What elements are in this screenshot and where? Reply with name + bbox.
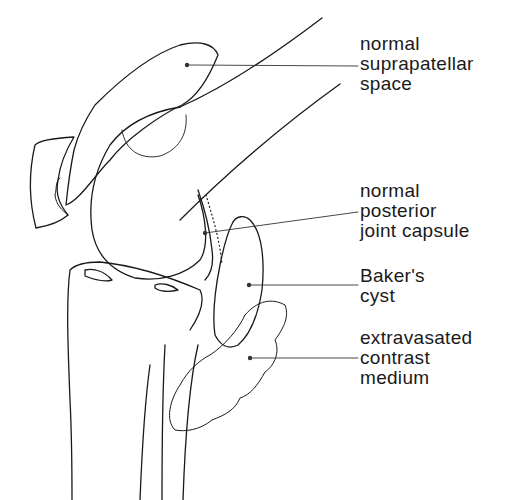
label-line: contrast (360, 348, 472, 368)
fibula-posterior (183, 345, 198, 500)
femoral-condyle (91, 107, 206, 279)
label-line: Baker's (360, 266, 425, 286)
label-line: extravasated (360, 328, 472, 348)
label-line: joint capsule (360, 221, 470, 241)
knee-diagram: normal suprapatellar space normal poster… (0, 0, 527, 500)
label-line: suprapatellar (360, 54, 474, 74)
patella-articular-edge (55, 178, 68, 215)
leader-lines (187, 65, 358, 358)
label-posterior-joint-capsule: normal posterior joint capsule (360, 181, 470, 241)
label-extravasated-contrast-medium: extravasated contrast medium (360, 328, 472, 388)
meniscus-anterior (85, 269, 112, 280)
label-line: normal (360, 181, 470, 201)
label-line: normal (360, 34, 474, 54)
label-bakers-cyst: Baker's cyst (360, 266, 425, 306)
femur-posterior-line (180, 84, 340, 220)
extravasated-contrast (170, 301, 287, 431)
label-line: posterior (360, 201, 470, 221)
suprapatellar-bursa (66, 43, 218, 205)
leader-dots (185, 63, 252, 360)
label-line: cyst (360, 286, 425, 306)
tibia-posterior-line (162, 345, 165, 500)
fibula-anterior (140, 365, 150, 500)
femur-anterior-line (180, 18, 322, 107)
label-suprapatellar-space: normal suprapatellar space (360, 34, 474, 94)
label-line: space (360, 74, 474, 94)
meniscus-posterior (155, 284, 178, 292)
label-line: medium (360, 368, 472, 388)
